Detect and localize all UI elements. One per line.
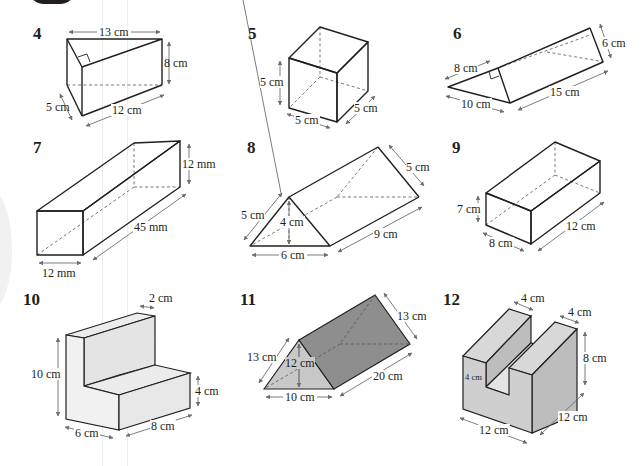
dimension-label: 6 cm	[74, 427, 100, 439]
dimension-label: 10 cm	[31, 368, 61, 380]
figure-8-triangular-prism	[243, 0, 424, 255]
dimension-label: 2 cm	[149, 292, 173, 304]
figures-canvas	[0, 0, 643, 466]
dimension-label: 12 cm	[285, 357, 315, 369]
dimension-label: 5 cm	[260, 76, 284, 88]
dimension-label: 13 cm	[97, 26, 131, 38]
dimension-label: 12 cm	[111, 104, 143, 116]
dimension-label: 15 cm	[549, 86, 581, 98]
dimension-label: 13 cm	[397, 310, 427, 322]
figure-9-cuboid	[478, 142, 604, 251]
dimension-label: 5 cm	[241, 209, 265, 221]
dimension-label: 12 cm	[565, 220, 597, 232]
dimension-label: 4 cm	[465, 373, 482, 382]
dimension-label: 12 cm	[558, 411, 588, 423]
problem-number-4: 4	[33, 24, 42, 44]
problem-number-5: 5	[248, 24, 257, 44]
dimension-label: 5 cm	[46, 101, 70, 113]
dimension-label: 13 cm	[247, 351, 277, 363]
problem-number-12: 12	[443, 290, 460, 310]
dimension-label: 10 cm	[460, 98, 492, 110]
dimension-label: 20 cm	[372, 370, 404, 382]
problem-number-10: 10	[23, 290, 40, 310]
dimension-label: 12 cm	[478, 424, 510, 436]
dimension-label: 10 cm	[283, 391, 317, 403]
dimension-label: 5 cm	[406, 161, 430, 173]
problem-number-8: 8	[247, 138, 256, 158]
dimension-label: 6 cm	[602, 37, 626, 49]
figure-7-cuboid	[37, 141, 189, 263]
problem-number-7: 7	[33, 138, 42, 158]
dimension-label: 4 cm	[195, 385, 219, 397]
dimension-label: 8 cm	[150, 420, 176, 432]
dimension-label: 5 cm	[354, 102, 378, 114]
problem-number-11: 11	[240, 290, 256, 310]
dimension-label: 8 cm	[164, 57, 188, 69]
dimension-label: 4 cm	[521, 292, 545, 304]
dimension-label: 5 cm	[294, 114, 320, 126]
dimension-label: 4 cm	[568, 306, 592, 318]
dimension-label: 12 mm	[42, 267, 76, 279]
dimension-label: 12 mm	[182, 158, 216, 170]
problem-number-6: 6	[453, 24, 462, 44]
dimension-label: 9 cm	[373, 228, 399, 240]
dimension-label: 6 cm	[279, 249, 307, 261]
dimension-label: 4 cm	[279, 216, 305, 228]
dimension-label: 45 mm	[133, 221, 169, 233]
figure-10-L-prism	[58, 306, 198, 438]
dimension-label: 7 cm	[457, 203, 481, 215]
dimension-label: 8 cm	[583, 352, 607, 364]
problem-number-9: 9	[452, 138, 461, 158]
dimension-label: 8 cm	[454, 62, 478, 74]
dimension-label: 8 cm	[488, 237, 514, 249]
